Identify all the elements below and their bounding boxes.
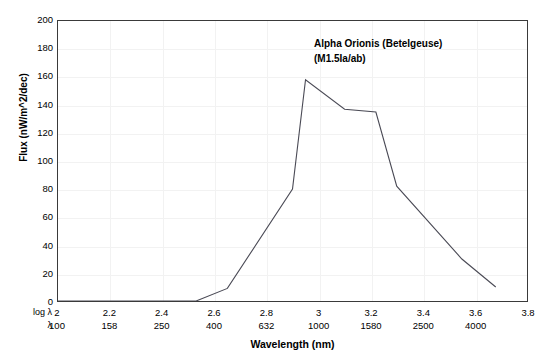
x-axis-title: Wavelength (nm) [57,338,528,350]
flux-series-line [58,80,496,301]
x-axis-log-tick-label: 2.6 [184,308,244,318]
y-axis-tick-label: 200 [9,15,53,25]
plot-area [57,20,528,302]
x-axis-log-tick-label: 3 [289,308,349,318]
y-axis-tick-label: 80 [9,184,53,194]
chart-annotation: Alpha Orionis (Betelgeuse) (M1.5Ia/ab) [314,36,442,66]
y-axis-tick-label: 120 [9,128,53,138]
x-axis-nm-tick-label: 400 [184,321,244,331]
x-axis-nm-tick-label: 100 [27,321,87,331]
x-axis-log-tick-label: 3.4 [393,308,453,318]
x-axis-nm-tick-label: 158 [79,321,139,331]
x-axis-log-tick-label: 3.2 [341,308,401,318]
x-axis-nm-tick-label: 250 [132,321,192,331]
x-axis-log-tick-label: 2 [27,308,87,318]
y-axis-tick-label: 140 [9,100,53,110]
x-axis-log-tick-label: 3.6 [446,308,506,318]
x-axis-ticks: log λ λ 22.22.42.62.833.23.43.63.8100158… [0,305,545,333]
annotation-line-1: Alpha Orionis (Betelgeuse) [314,36,442,51]
x-axis-nm-tick-label: 2500 [393,321,453,331]
y-axis-ticks: 020406080100120140160180200 [5,20,53,302]
x-axis-log-tick-label: 2.4 [132,308,192,318]
annotation-line-2: (M1.5Ia/ab) [314,51,442,66]
x-axis-log-tick-label: 3.8 [498,308,545,318]
x-axis-nm-tick-label: 4000 [446,321,506,331]
y-axis-tick-label: 20 [9,269,53,279]
x-axis-log-tick-label: 2.2 [79,308,139,318]
x-axis-nm-tick-label: 1580 [341,321,401,331]
x-axis-nm-tick-label: 632 [236,321,296,331]
y-axis-tick-label: 40 [9,241,53,251]
y-axis-tick-label: 60 [9,213,53,223]
flux-curve [58,21,527,301]
y-axis-tick-label: 160 [9,72,53,82]
x-axis-log-tick-label: 2.8 [236,308,296,318]
y-axis-title: Flux (nW/m^2/dec) [18,48,29,188]
y-axis-tick-label: 180 [9,43,53,53]
spectrum-chart: 020406080100120140160180200 Flux (nW/m^2… [0,0,545,364]
y-axis-tick-label: 100 [9,156,53,166]
x-axis-nm-tick-label: 1000 [289,321,349,331]
